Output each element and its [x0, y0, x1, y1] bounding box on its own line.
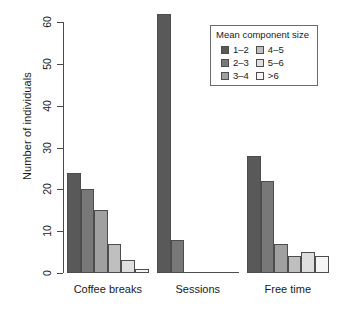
legend-entry: 2–3 [221, 57, 249, 68]
bar [171, 240, 185, 273]
y-axis-tick-label: 30 [41, 135, 53, 161]
bar [274, 244, 288, 273]
legend-label: 2–3 [233, 58, 249, 68]
legend-swatch-icon [221, 59, 229, 67]
legend-entry: 5–6 [256, 57, 284, 68]
legend-label: 4–5 [268, 45, 284, 55]
x-axis-group-label: Coffee breaks [58, 283, 158, 295]
bar [94, 210, 108, 273]
legend-label: 3–4 [233, 71, 249, 81]
bar [81, 189, 95, 273]
legend-label: 5–6 [268, 58, 284, 68]
legend-column: 1–22–33–4 [221, 44, 249, 81]
y-axis-title: Number of individuals [21, 36, 33, 216]
y-axis-tick-label: 0 [41, 260, 53, 286]
bar [211, 272, 225, 273]
y-axis-tick [57, 22, 63, 23]
bar [261, 181, 275, 273]
y-axis-tick [57, 273, 63, 274]
legend-entry: 1–2 [221, 44, 249, 55]
bar-chart: Number of individuals 0102030405060 Coff… [0, 0, 340, 317]
legend-column: 4–55–6>6 [256, 44, 284, 81]
x-axis-group-label: Free time [238, 283, 338, 295]
legend-label: 1–2 [233, 45, 249, 55]
y-axis-tick-label: 40 [41, 93, 53, 119]
bar [301, 252, 315, 273]
y-axis-tick-label: 60 [41, 9, 53, 35]
bar [157, 14, 171, 273]
bar [121, 260, 135, 273]
legend-swatch-icon [256, 59, 264, 67]
legend-entry: 3–4 [221, 70, 249, 81]
legend-entries: 1–22–33–44–55–6>6 [216, 44, 313, 81]
legend-swatch-icon [221, 46, 229, 54]
bar [288, 256, 302, 273]
legend-swatch-icon [221, 72, 229, 80]
y-axis-tick [57, 189, 63, 190]
bar [225, 272, 239, 273]
bar-group [67, 14, 149, 273]
bar [315, 256, 329, 273]
legend-swatch-icon [256, 72, 264, 80]
bar [184, 272, 198, 273]
legend-entry: 4–5 [256, 44, 284, 55]
bar [247, 156, 261, 273]
y-axis-tick [57, 64, 63, 65]
bar [135, 269, 149, 273]
y-axis-tick-label: 10 [41, 218, 53, 244]
bar [67, 173, 81, 273]
bar [198, 272, 212, 273]
legend-entry: >6 [256, 70, 284, 81]
y-axis-tick-label: 50 [41, 51, 53, 77]
y-axis-tick [57, 106, 63, 107]
bar [108, 244, 122, 273]
y-axis-tick-label: 20 [41, 176, 53, 202]
legend-swatch-icon [256, 46, 264, 54]
y-axis-tick [57, 231, 63, 232]
legend-label: >6 [268, 71, 279, 81]
y-axis-tick [57, 148, 63, 149]
legend: Mean component size 1–22–33–44–55–6>6 [210, 25, 318, 86]
x-axis-group-label: Sessions [148, 283, 248, 295]
legend-title: Mean component size [216, 29, 313, 41]
